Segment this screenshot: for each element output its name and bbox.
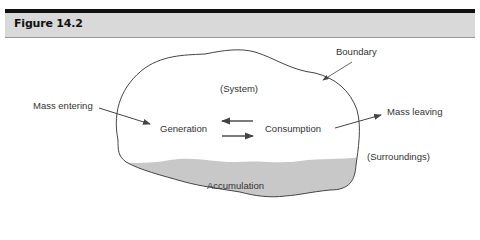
boundary-label: Boundary xyxy=(336,46,377,57)
surroundings-label: (Surroundings) xyxy=(367,151,430,162)
mass-leaving-label: Mass leaving xyxy=(387,106,442,117)
mass-entering-arrow xyxy=(99,108,150,124)
accumulation-label: Accumulation xyxy=(207,180,264,191)
generation-label: Generation xyxy=(160,123,207,134)
system-label: (System) xyxy=(220,83,258,94)
mass-entering-label: Mass entering xyxy=(33,100,93,111)
consumption-label: Consumption xyxy=(265,123,321,134)
boundary-pointer xyxy=(323,62,352,80)
